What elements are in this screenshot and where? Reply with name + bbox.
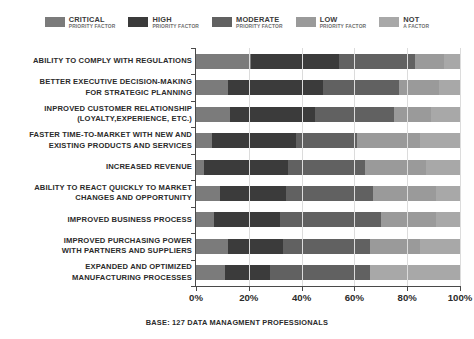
category-label: IMPROVED PURCHASING POWER WITH PARTNERS …	[62, 236, 192, 257]
table-row	[196, 160, 460, 175]
bar-segment	[426, 160, 460, 175]
bar-segment	[323, 80, 400, 95]
legend-series-name: NOT	[403, 16, 429, 23]
x-tick-label: 0%	[189, 292, 203, 303]
x-tick-mark	[354, 287, 355, 291]
y-tick-mark	[191, 180, 196, 181]
legend-text: LOWPRIORITY FACTOR	[320, 16, 367, 30]
x-tick-label: 40%	[292, 292, 311, 303]
legend-swatch-icon	[212, 17, 232, 27]
category-label: INCREASED REVENUE	[106, 162, 192, 173]
table-row	[196, 133, 460, 148]
y-tick-mark	[191, 207, 196, 208]
chart-base-note: BASE: 127 DATA MANAGMENT PROFESSIONALS	[0, 318, 474, 327]
bar-segment	[196, 239, 228, 254]
x-tick-mark	[407, 287, 408, 291]
x-tick-mark	[460, 287, 461, 291]
category-label: IMPROVED BUSINESS PROCESS	[68, 215, 192, 226]
legend-series-sublabel: PRIORITY FACTOR	[320, 25, 367, 30]
category-label: BETTER EXECUTIVE DECISION-MAKING FOR STR…	[40, 77, 192, 98]
bar-segment	[283, 239, 370, 254]
category-axis-labels: ABILITY TO COMPLY WITH REGULATIONSBETTER…	[6, 48, 192, 286]
legend-text: HIGHPRIORITY FACTOR	[152, 16, 199, 30]
category-label: INPROVED CUSTOMER RELATIONSHIP (LOYALTY,…	[44, 104, 192, 125]
legend-series-sublabel: PRIORITY FACTOR	[236, 25, 283, 30]
legend-series-sublabel: A FACTOR	[403, 25, 429, 30]
legend-swatch-icon	[45, 17, 65, 27]
x-tick-label: 60%	[345, 292, 364, 303]
bar-segment	[431, 107, 460, 122]
bar-segment	[251, 54, 338, 69]
legend-text: NOTA FACTOR	[403, 16, 429, 30]
y-tick-mark	[191, 74, 196, 75]
bar-segment	[339, 54, 416, 69]
y-tick-mark	[191, 154, 196, 155]
bar-segment	[196, 133, 212, 148]
bar-segment	[214, 212, 280, 227]
legend-series-name: CRITICAL	[69, 16, 116, 23]
bar-segment	[444, 54, 460, 69]
bar-segment	[220, 186, 286, 201]
bar-segment	[394, 107, 431, 122]
category-label: ABILITY TO REACT QUICKLY TO MARKET CHANG…	[34, 183, 192, 204]
category-label: FASTER TIME-TO-MARKET WITH NEW AND EXIST…	[29, 130, 192, 151]
bar-segment	[196, 265, 225, 280]
bar-segment	[196, 54, 251, 69]
legend-entry: NOTA FACTOR	[379, 16, 429, 30]
bar-segment	[370, 265, 460, 280]
bar-segment	[415, 54, 444, 69]
bar-segment	[228, 80, 323, 95]
category-label: EXPANDED AND OPTIMIZED MANUFACTURING PRO…	[72, 262, 192, 283]
legend-series-name: MODERATE	[236, 16, 283, 23]
chart-legend: CRITICALPRIORITY FACTORHIGHPRIORITY FACT…	[0, 16, 474, 30]
x-tick-label: 20%	[239, 292, 258, 303]
bar-segment	[286, 186, 373, 201]
bar-segment	[365, 160, 426, 175]
legend-entry: LOWPRIORITY FACTOR	[296, 16, 367, 30]
x-gridline	[460, 48, 461, 286]
x-axis-line	[195, 286, 461, 287]
table-row	[196, 212, 460, 227]
table-row	[196, 54, 460, 69]
bar-segment	[357, 133, 420, 148]
x-tick-label: 100%	[448, 292, 473, 303]
table-row	[196, 265, 460, 280]
table-row	[196, 107, 460, 122]
bar-segment	[436, 212, 460, 227]
y-tick-mark	[191, 127, 196, 128]
legend-series-sublabel: PRIORITY FACTOR	[69, 25, 116, 30]
bar-segment	[296, 133, 357, 148]
legend-series-name: LOW	[320, 16, 367, 23]
table-row	[196, 80, 460, 95]
legend-entry: HIGHPRIORITY FACTOR	[128, 16, 199, 30]
category-label: ABILITY TO COMPLY WITH REGULATIONS	[33, 56, 192, 67]
table-row	[196, 239, 460, 254]
x-tick-label: 80%	[398, 292, 417, 303]
chart-plot-area: ABILITY TO COMPLY WITH REGULATIONSBETTER…	[0, 48, 474, 290]
bar-segment	[370, 239, 420, 254]
table-row	[196, 186, 460, 201]
x-gridline	[249, 48, 250, 286]
bar-segment	[420, 133, 460, 148]
bar-segment	[381, 212, 436, 227]
legend-text: MODERATEPRIORITY FACTOR	[236, 16, 283, 30]
x-tick-mark	[302, 287, 303, 291]
legend-entry: CRITICALPRIORITY FACTOR	[45, 16, 116, 30]
x-gridline	[354, 48, 355, 286]
bar-segment	[280, 212, 380, 227]
bar-segment	[196, 212, 214, 227]
x-gridline	[302, 48, 303, 286]
x-gridline	[407, 48, 408, 286]
x-axis-tick-labels: 0%20%40%60%80%100%	[0, 292, 474, 306]
legend-swatch-icon	[296, 17, 316, 27]
legend-entry: MODERATEPRIORITY FACTOR	[212, 16, 283, 30]
y-tick-mark	[191, 286, 196, 287]
x-tick-mark	[196, 287, 197, 291]
bar-segment	[196, 160, 204, 175]
bar-segment	[225, 265, 270, 280]
bar-segment	[196, 186, 220, 201]
y-tick-mark	[191, 101, 196, 102]
bar-segment	[196, 107, 230, 122]
bar-segment	[439, 80, 460, 95]
bar-segment	[420, 239, 460, 254]
